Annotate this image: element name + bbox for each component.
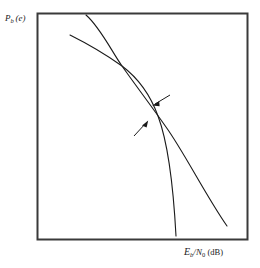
figure-container: Pb (e) Eb/N0 (dB) Uncoded Coded [0,0,260,268]
plot-area [0,0,260,268]
